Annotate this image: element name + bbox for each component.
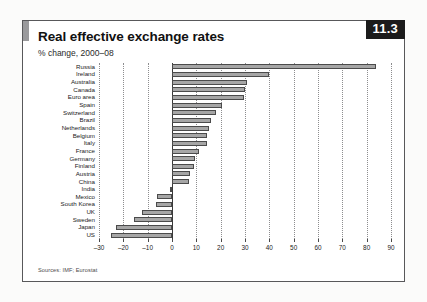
tick-mark [342,239,343,242]
tick-label: 80 [363,244,370,251]
tick-label: 70 [339,244,346,251]
tick-label: 40 [266,244,273,251]
bar [134,217,172,222]
tick-label: 20 [217,244,224,251]
tick-label: –10 [142,244,153,251]
category-label: South Korea [61,201,95,207]
category-label: Sweden [73,217,95,223]
screenshot-page: 11.3 Real effective exchange rates % cha… [0,0,427,302]
category-label: Switzerland [63,110,95,116]
source-note: Sources: IMF; Eurostat [38,267,97,273]
bar [156,202,172,207]
category-label: Germany [70,156,95,162]
category-label: Euro area [68,94,95,100]
tick-mark [269,239,270,242]
tick-mark [245,239,246,242]
gridline [391,63,393,239]
bar [172,156,195,161]
category-label: UK [86,209,95,215]
gridline [342,63,344,239]
tick-label: –20 [118,244,129,251]
category-label: Ireland [76,71,95,77]
chart-subtitle: % change, 2000–08 [38,48,114,58]
gridline [269,63,271,239]
page-title: Real effective exchange rates [38,29,224,44]
category-label: Russia [76,64,95,70]
bar [172,171,190,176]
bar [172,72,269,77]
bar [172,103,222,108]
bar [170,187,172,192]
tick-mark [391,239,392,242]
gridline [318,63,320,239]
bar [142,210,172,215]
category-label: Australia [71,79,95,85]
gridline [367,63,369,239]
accent-bar [23,21,29,41]
bar [172,133,207,138]
bar [172,179,189,184]
bar [172,80,247,85]
category-label: US [86,232,95,238]
tick-mark [221,239,222,242]
gridline [245,63,247,239]
category-label: Netherlands [62,125,95,131]
bar [172,164,194,169]
bar [172,87,245,92]
tick-label: 50 [290,244,297,251]
tick-mark [123,239,124,242]
bar [172,118,211,123]
category-label: Japan [78,224,95,230]
x-axis-ticks: –30–20–100102030405060708090 [99,239,391,257]
tick-mark [148,239,149,242]
bar [172,126,209,131]
tick-label: 60 [314,244,321,251]
bar [157,194,172,199]
category-label: Brazil [80,117,95,123]
plot-area: RussiaIrelandAustraliaCanadaEuro areaSpa… [35,63,395,259]
gridline [123,63,125,239]
bar [172,95,244,100]
category-label: Mexico [75,194,95,200]
category-label: Canada [73,87,95,93]
category-axis-labels: RussiaIrelandAustraliaCanadaEuro areaSpa… [35,63,97,239]
tick-mark [196,239,197,242]
gridline [99,63,101,239]
tick-mark [318,239,319,242]
category-label: Belgium [73,133,95,139]
bar [172,64,376,69]
tick-label: 0 [170,244,174,251]
bars-canvas [99,63,391,239]
category-label: China [79,179,95,185]
tick-mark [367,239,368,242]
category-label: France [76,148,95,154]
category-label: Austria [76,171,95,177]
tick-label: 30 [241,244,248,251]
gridline [294,63,296,239]
category-label: Italy [84,140,95,146]
tick-mark [294,239,295,242]
category-label: India [82,186,95,192]
category-label: Finland [75,163,95,169]
bar [172,149,199,154]
tick-mark [99,239,100,242]
bar [116,225,172,230]
bar [172,110,216,115]
tick-label: 10 [193,244,200,251]
chart-card: 11.3 Real effective exchange rates % cha… [22,20,405,282]
chart-number-badge: 11.3 [366,20,405,39]
tick-label: –30 [94,244,105,251]
tick-label: 90 [387,244,394,251]
category-label: Spain [79,102,95,108]
tick-mark [172,239,173,242]
bar [111,233,172,238]
bar [172,141,207,146]
